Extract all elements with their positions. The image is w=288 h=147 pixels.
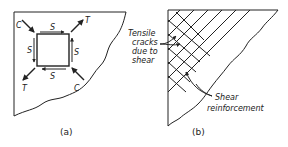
- compression-arrow-top-left: [22, 20, 34, 32]
- caption-b: (b): [192, 127, 205, 137]
- label-due-to: due to: [132, 47, 158, 56]
- label-s-right: S: [74, 48, 79, 57]
- panel-a: S S S S C T T C (a): [14, 12, 126, 137]
- label-s-top: S: [50, 23, 55, 32]
- stress-element: [37, 34, 69, 66]
- panel-b: Tensile cracks due to shear Shear reinfo…: [128, 10, 278, 137]
- label-s-bottom: S: [50, 72, 55, 81]
- label-tensile: Tensile: [128, 29, 156, 38]
- label-t-top-right: T: [85, 16, 91, 25]
- label-c-bottom-right: C: [74, 84, 80, 93]
- label-shear-1: shear: [132, 56, 155, 65]
- diagram-canvas: S S S S C T T C (a): [0, 0, 288, 147]
- crack-pattern: [168, 10, 250, 92]
- leader-cracks-2: [160, 44, 180, 45]
- tension-arrow-top-right: [71, 20, 83, 32]
- tension-arrow-bottom-left: [23, 68, 35, 80]
- label-t-bottom-left: T: [22, 84, 28, 93]
- leader-reinf-1: [186, 72, 212, 96]
- caption-a: (a): [60, 127, 73, 137]
- label-s-left: S: [27, 46, 32, 55]
- beam-outline-a: [14, 12, 126, 116]
- label-c-top-left: C: [16, 21, 22, 30]
- label-reinforcement: reinforcement: [207, 104, 265, 113]
- label-cracks: cracks: [132, 38, 158, 47]
- label-shear-2: Shear: [215, 93, 239, 102]
- compression-arrow-bottom-right: [72, 68, 84, 80]
